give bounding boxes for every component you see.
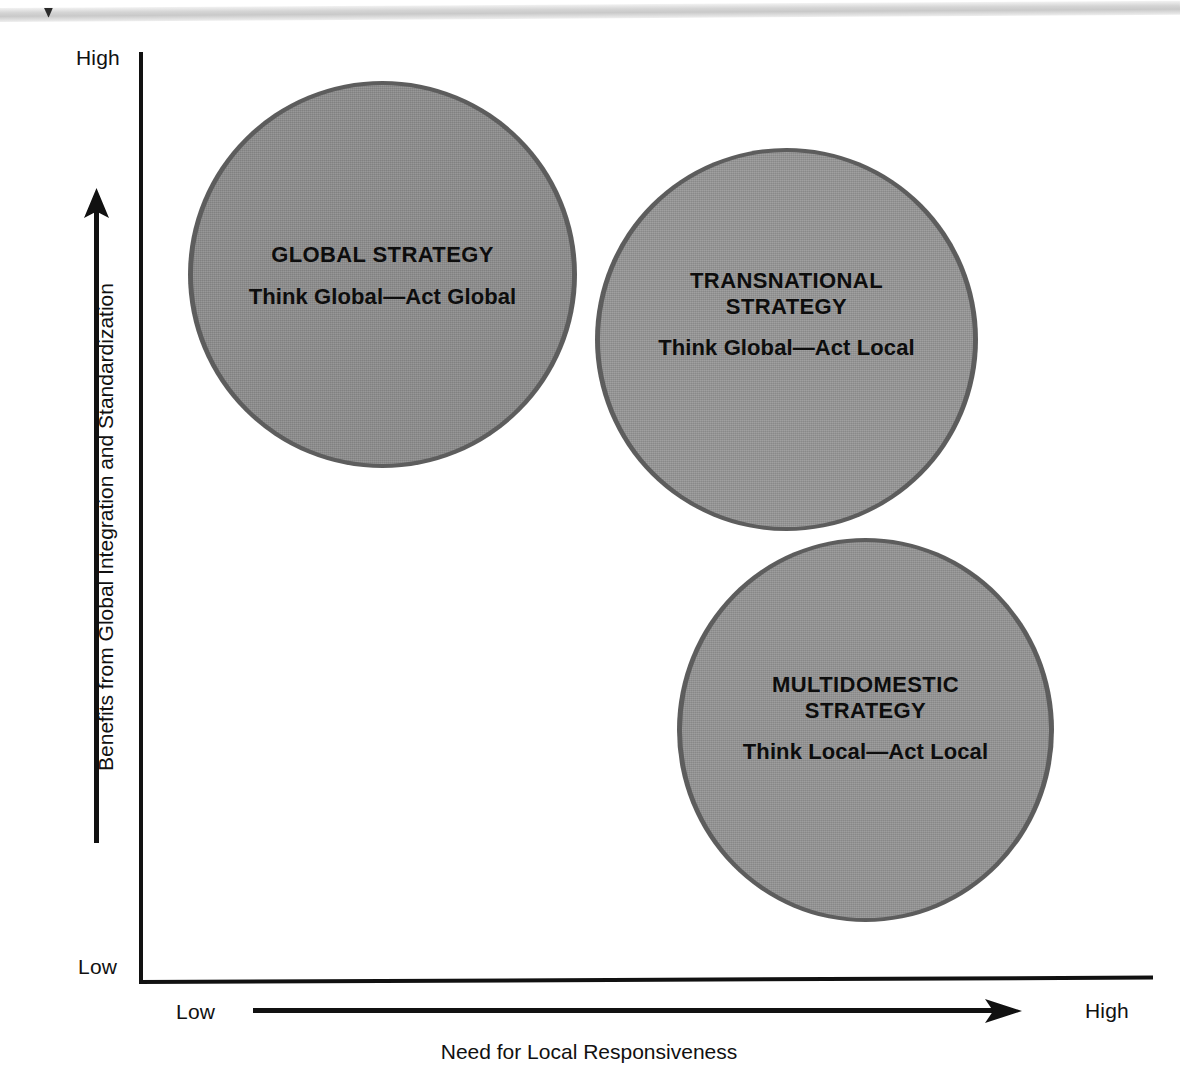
- bubble-title-line2: STRATEGY: [608, 294, 965, 320]
- y-axis-line: [139, 52, 143, 984]
- x-axis-high-label: High: [1085, 999, 1129, 1023]
- y-axis-title: Benefits from Global Integration and Sta…: [94, 207, 118, 847]
- x-axis-low-label: Low: [176, 1000, 215, 1024]
- bubble-title-line1: TRANSNATIONAL: [608, 268, 965, 294]
- bubble-title-line2: STRATEGY: [690, 698, 1041, 724]
- x-axis-line: [139, 976, 1153, 984]
- bubble-title-line1: MULTIDOMESTIC: [690, 672, 1041, 698]
- bubble-subtitle: Think Global—Act Local: [608, 335, 965, 361]
- bubble-subtitle: Think Global—Act Global: [201, 284, 564, 310]
- bubble-title: GLOBAL STRATEGY: [201, 242, 564, 268]
- page-marker-icon: [44, 8, 53, 18]
- x-axis-title: Need for Local Responsiveness: [339, 1040, 839, 1064]
- x-axis-arrow-shaft: [253, 1008, 998, 1013]
- bubble-transnational-strategy[interactable]: TRANSNATIONAL STRATEGY Think Global—Act …: [600, 152, 973, 527]
- bubble-content: GLOBAL STRATEGY Think Global—Act Global: [193, 85, 572, 310]
- bubble-subtitle: Think Local—Act Local: [690, 739, 1041, 765]
- bubble-content: MULTIDOMESTIC STRATEGY Think Local—Act L…: [682, 542, 1049, 765]
- y-axis-high-label: High: [76, 46, 120, 70]
- bubble-multidomestic-strategy[interactable]: MULTIDOMESTIC STRATEGY Think Local—Act L…: [682, 542, 1049, 918]
- bubble-global-strategy[interactable]: GLOBAL STRATEGY Think Global—Act Global: [193, 85, 572, 464]
- bubble-content: TRANSNATIONAL STRATEGY Think Global—Act …: [600, 152, 973, 361]
- page-header-rule: [0, 1, 1180, 22]
- y-axis-low-label: Low: [78, 955, 117, 979]
- strategy-matrix-figure: High Low Low High Benefits from Global I…: [0, 0, 1180, 1072]
